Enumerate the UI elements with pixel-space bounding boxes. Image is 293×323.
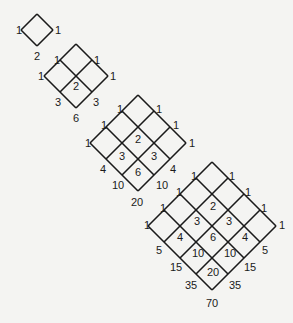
path-count-label: 2	[135, 133, 141, 145]
path-count-label: 3	[55, 96, 61, 108]
path-count-label: 6	[135, 166, 141, 178]
path-count-label: 35	[185, 279, 197, 291]
path-count-label: 2	[210, 200, 216, 212]
path-count-label: 2	[73, 80, 79, 92]
path-count-label: 6	[210, 231, 216, 243]
path-count-label: 1	[156, 103, 162, 115]
path-count-label: 1	[55, 24, 61, 36]
path-count-label: 10	[112, 179, 124, 191]
path-count-label: 4	[242, 231, 248, 243]
path-count-label: 3	[93, 96, 99, 108]
grid-line	[21, 30, 37, 46]
path-count-label: 1	[245, 186, 251, 198]
path-count-label: 10	[156, 179, 168, 191]
path-count-label: 1	[110, 70, 116, 82]
path-count-label: 3	[119, 150, 125, 162]
path-count-label: 1	[261, 202, 267, 214]
path-count-label: 6	[73, 112, 79, 124]
path-count-label: 3	[194, 215, 200, 227]
path-count-label: 1	[189, 137, 195, 149]
path-count-label: 5	[262, 244, 268, 256]
grid-line	[37, 30, 53, 46]
path-count-label: 70	[206, 297, 218, 309]
path-count-label: 1	[191, 170, 197, 182]
path-count-label: 1	[85, 137, 91, 149]
lattice-diagram-canvas: 1121111233611111213346410102011111211331…	[0, 0, 293, 323]
path-count-label: 15	[244, 261, 256, 273]
path-count-label: 1	[101, 119, 107, 131]
path-count-label: 20	[207, 266, 219, 278]
path-count-label: 1	[117, 103, 123, 115]
path-count-label: 1	[94, 54, 100, 66]
grid-line	[37, 14, 53, 30]
path-count-label: 15	[170, 261, 182, 273]
path-count-label: 10	[192, 247, 204, 259]
path-count-label: 1	[176, 186, 182, 198]
path-count-label: 10	[224, 247, 236, 259]
path-count-label: 4	[100, 163, 106, 175]
path-count-label: 35	[229, 279, 241, 291]
path-count-label: 20	[131, 196, 143, 208]
path-count-label: 5	[156, 244, 162, 256]
path-count-label: 1	[38, 70, 44, 82]
path-count-label: 4	[177, 231, 183, 243]
path-count-label: 1	[229, 170, 235, 182]
grid-line	[21, 14, 37, 30]
path-count-label: 1	[16, 24, 22, 36]
path-count-label: 4	[170, 163, 176, 175]
path-count-label: 3	[226, 215, 232, 227]
diamond-grid-2x2: 11112336	[38, 44, 116, 124]
path-count-label: 1	[54, 54, 60, 66]
path-count-label: 1	[160, 202, 166, 214]
lattice-figure: 1121111233611111213346410102011111211331…	[0, 0, 293, 323]
path-count-label: 1	[173, 119, 179, 131]
path-count-label: 1	[279, 219, 285, 231]
path-count-label: 2	[34, 50, 40, 62]
path-count-label: 3	[151, 150, 157, 162]
path-count-label: 1	[144, 219, 150, 231]
